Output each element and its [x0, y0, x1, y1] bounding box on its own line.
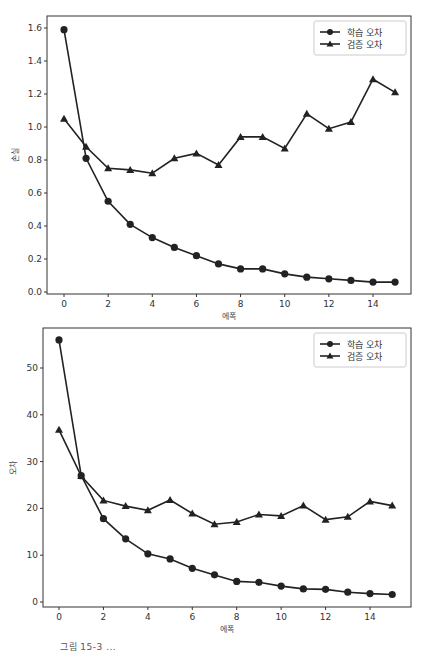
x-tick-label: 8: [238, 299, 244, 309]
legend-label: 검증 오차: [347, 39, 383, 50]
data-point: [211, 571, 218, 578]
data-point: [344, 589, 351, 596]
x-tick-label: 14: [364, 612, 376, 622]
circle-marker-icon: [327, 341, 333, 347]
series-train: [55, 336, 395, 598]
plot-frame: [43, 328, 411, 607]
x-tick-label: 8: [234, 612, 240, 622]
chart-loss: 024681012140.00.20.40.60.81.01.21.41.6에폭…: [10, 16, 411, 321]
data-point: [391, 88, 399, 95]
data-point: [389, 591, 396, 598]
legend: 학습 오차검증 오차: [314, 333, 406, 367]
x-tick-label: 10: [279, 299, 291, 309]
y-tick-label: 30: [27, 457, 39, 467]
x-tick-label: 2: [105, 299, 111, 309]
data-point: [193, 252, 200, 259]
x-axis-label: 에폭: [220, 625, 234, 634]
data-point: [60, 115, 68, 122]
data-point: [105, 198, 112, 205]
data-point: [149, 234, 156, 241]
y-axis-label: 손실: [10, 148, 20, 162]
data-point: [55, 336, 62, 343]
data-point: [192, 149, 200, 156]
data-point: [233, 578, 240, 585]
x-tick-label: 6: [194, 299, 200, 309]
y-axis-label: 오차: [9, 460, 18, 475]
circle-marker-icon: [327, 29, 333, 35]
legend-label: 학습 오차: [347, 27, 383, 38]
y-tick-label: 0.6: [28, 188, 43, 198]
y-tick-label: 1.2: [28, 89, 42, 99]
data-point: [166, 496, 174, 503]
x-axis-label: 에폭: [222, 312, 236, 321]
data-point: [303, 110, 311, 117]
y-tick-label: 50: [27, 363, 39, 373]
figure-caption: 그림 15-3 ...: [60, 640, 116, 653]
x-tick-label: 14: [367, 299, 379, 309]
data-point: [347, 118, 355, 125]
x-tick-label: 6: [189, 612, 195, 622]
data-point: [259, 265, 266, 272]
x-tick-label: 2: [101, 612, 107, 622]
data-point: [237, 265, 244, 272]
y-tick-label: 20: [27, 503, 39, 513]
y-tick-label: 40: [27, 410, 39, 420]
data-point: [255, 579, 262, 586]
series-val: [55, 426, 396, 528]
legend: 학습 오차검증 오차: [314, 21, 406, 55]
x-tick-label: 12: [320, 612, 331, 622]
plot-frame: [47, 16, 411, 294]
chart-error: 0246810121401020304050에폭오차학습 오차검증 오차: [9, 328, 411, 634]
data-point: [366, 590, 373, 597]
x-tick-label: 10: [275, 612, 287, 622]
data-point: [366, 497, 374, 504]
legend-label: 학습 오차: [347, 339, 383, 350]
series-val: [60, 75, 399, 176]
series-train: [60, 26, 398, 286]
data-point: [122, 535, 129, 542]
data-point: [369, 279, 376, 286]
y-tick-label: 1.4: [28, 56, 43, 66]
x-tick-label: 0: [56, 612, 62, 622]
data-point: [344, 513, 352, 520]
data-point: [278, 582, 285, 589]
data-point: [215, 260, 222, 267]
y-tick-label: 0.2: [28, 254, 42, 264]
data-point: [100, 515, 107, 522]
data-point: [325, 275, 332, 282]
data-point: [60, 26, 67, 33]
y-tick-label: 0.0: [28, 287, 43, 297]
data-point: [391, 279, 398, 286]
data-point: [144, 550, 151, 557]
y-tick-label: 10: [27, 550, 39, 560]
data-point: [188, 510, 196, 517]
data-point: [189, 565, 196, 572]
y-tick-label: 0.4: [28, 221, 43, 231]
data-point: [369, 75, 377, 82]
y-tick-label: 1.0: [28, 122, 43, 132]
y-tick-label: 1.6: [28, 23, 43, 33]
data-point: [281, 270, 288, 277]
x-tick-label: 12: [323, 299, 334, 309]
data-point: [171, 244, 178, 251]
data-point: [82, 155, 89, 162]
x-tick-label: 4: [149, 299, 155, 309]
data-point: [300, 585, 307, 592]
data-point: [299, 502, 307, 509]
data-point: [166, 555, 173, 562]
data-point: [55, 426, 63, 433]
x-tick-label: 4: [145, 612, 151, 622]
data-point: [347, 277, 354, 284]
data-point: [303, 274, 310, 281]
y-tick-label: 0: [32, 597, 38, 607]
legend-label: 검증 오차: [347, 351, 383, 362]
x-tick-label: 0: [61, 299, 67, 309]
y-tick-label: 0.8: [28, 155, 43, 165]
data-point: [127, 221, 134, 228]
data-point: [322, 586, 329, 593]
